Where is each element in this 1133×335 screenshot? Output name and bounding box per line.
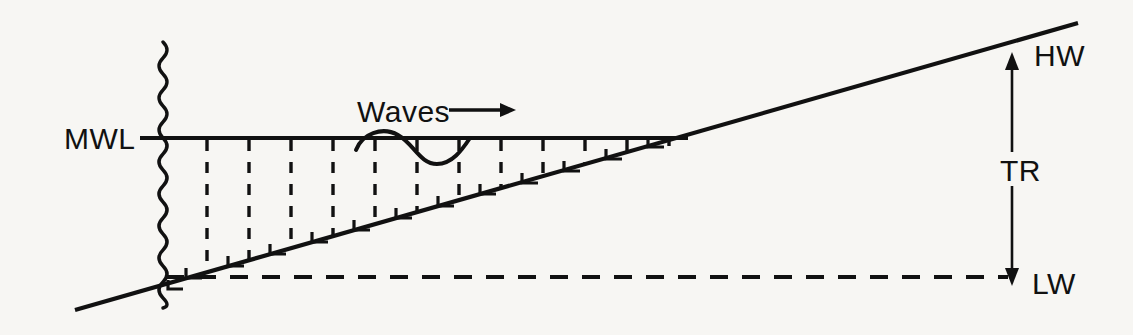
tidal-range-diagram: MWL Waves HW TR LW [0,0,1133,335]
waves-label: Waves [357,95,450,128]
diagram-canvas: MWL Waves HW TR LW [0,0,1133,335]
lw-label: LW [1032,267,1076,300]
hw-label: HW [1034,39,1085,72]
mwl-label: MWL [64,122,136,155]
tr-label: TR [1000,154,1041,187]
